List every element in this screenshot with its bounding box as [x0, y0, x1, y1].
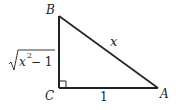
right-angle-marker — [59, 81, 66, 88]
side-ba-hypotenuse — [59, 16, 158, 88]
hypotenuse-label: x — [110, 34, 118, 49]
horizontal-leg-label: 1 — [100, 90, 108, 104]
radicand-rest: − 1 — [31, 55, 53, 69]
radicand-base: x — [19, 55, 26, 69]
vertex-label-a: A — [159, 87, 169, 101]
vertex-label-c: C — [45, 89, 54, 103]
vertical-leg-label: x 2 − 1 — [9, 50, 55, 70]
vertex-label-b: B — [45, 3, 55, 17]
right-triangle-diagram: B C A x 1 x 2 − 1 — [0, 0, 176, 110]
